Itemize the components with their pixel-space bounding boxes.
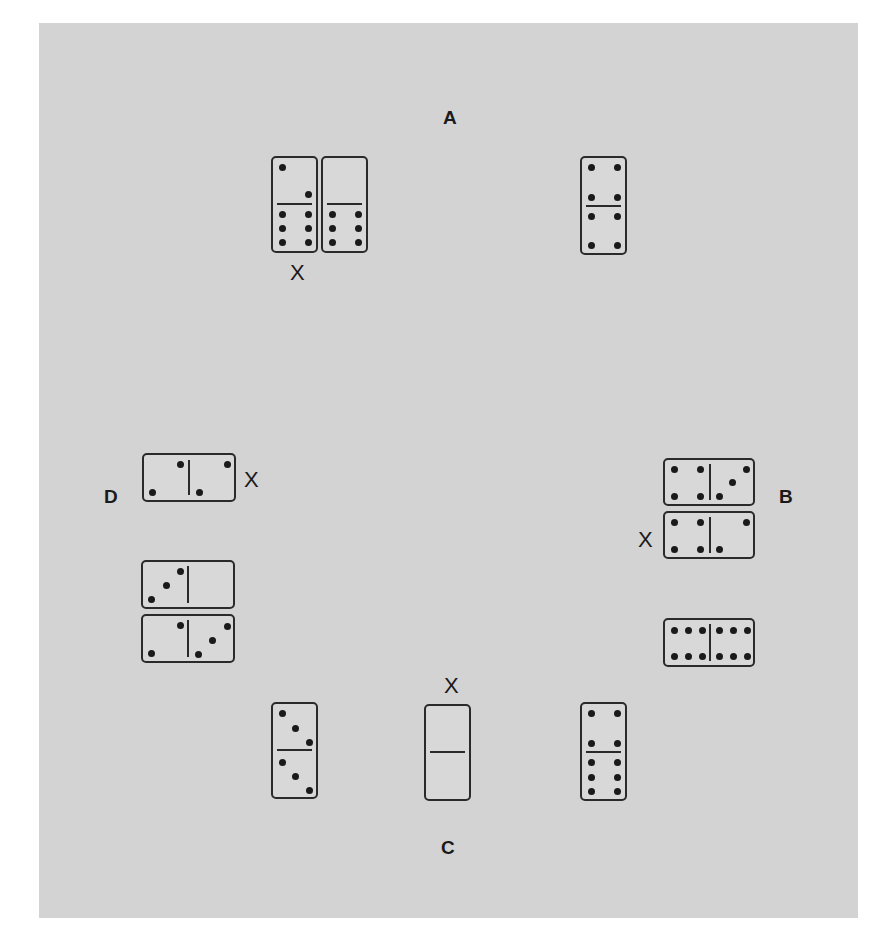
- domino-divider: [709, 464, 711, 500]
- pip: [279, 239, 286, 246]
- domino-b1: [663, 458, 755, 506]
- pip: [355, 239, 362, 246]
- pip: [588, 740, 595, 747]
- domino-divider: [187, 620, 189, 657]
- pip: [614, 774, 621, 781]
- pip: [588, 788, 595, 795]
- pip: [716, 653, 723, 660]
- game-table: A B C D X X X X: [39, 23, 858, 918]
- player-label-b: B: [779, 487, 793, 506]
- pip: [744, 653, 751, 660]
- pip: [292, 725, 299, 732]
- pip: [305, 211, 312, 218]
- pip: [588, 213, 595, 220]
- domino-divider: [586, 205, 621, 207]
- pip: [671, 653, 678, 660]
- pip: [671, 627, 678, 634]
- pip: [730, 653, 737, 660]
- pip: [671, 546, 678, 553]
- pip: [614, 194, 621, 201]
- pip: [588, 774, 595, 781]
- pip: [279, 211, 286, 218]
- x-marker-a: X: [290, 262, 305, 284]
- x-marker-b: X: [638, 529, 653, 551]
- pip: [329, 211, 336, 218]
- domino-divider: [277, 749, 312, 751]
- pip: [305, 225, 312, 232]
- pip: [588, 710, 595, 717]
- pip: [177, 568, 184, 575]
- pip: [588, 242, 595, 249]
- pip: [697, 519, 704, 526]
- pip: [685, 653, 692, 660]
- pip: [697, 493, 704, 500]
- pip: [305, 239, 312, 246]
- pip: [697, 466, 704, 473]
- pip: [196, 489, 203, 496]
- domino-d3: [141, 614, 235, 663]
- player-label-a: A: [443, 108, 457, 127]
- pip: [148, 596, 155, 603]
- pip: [292, 773, 299, 780]
- pip: [614, 710, 621, 717]
- player-label-d: D: [104, 487, 118, 506]
- pip: [743, 466, 750, 473]
- pip: [306, 739, 313, 746]
- pip: [329, 239, 336, 246]
- pip: [614, 213, 621, 220]
- pip: [279, 759, 286, 766]
- pip: [614, 759, 621, 766]
- pip: [224, 461, 231, 468]
- pip: [279, 710, 286, 717]
- pip: [614, 242, 621, 249]
- pip: [177, 622, 184, 629]
- domino-divider: [187, 566, 189, 603]
- domino-divider: [327, 203, 362, 205]
- domino-a2: [321, 156, 368, 253]
- pip: [355, 225, 362, 232]
- domino-a1: [271, 156, 318, 253]
- x-marker-c: X: [444, 675, 459, 697]
- domino-divider: [188, 460, 190, 495]
- domino-divider: [709, 517, 711, 553]
- x-marker-d: X: [244, 469, 259, 491]
- pip: [306, 787, 313, 794]
- pip: [716, 546, 723, 553]
- pip: [671, 493, 678, 500]
- pip: [588, 194, 595, 201]
- domino-divider: [709, 624, 711, 661]
- pip: [209, 637, 216, 644]
- domino-c2: [424, 704, 471, 801]
- pip: [716, 493, 723, 500]
- domino-d2: [141, 560, 235, 609]
- pip: [699, 627, 706, 634]
- player-label-c: C: [441, 838, 455, 857]
- domino-b3: [663, 618, 755, 667]
- pip: [716, 627, 723, 634]
- pip: [279, 164, 286, 171]
- pip: [195, 651, 202, 658]
- pip: [730, 627, 737, 634]
- pip: [177, 461, 184, 468]
- pip: [148, 650, 155, 657]
- pip: [614, 164, 621, 171]
- pip: [588, 164, 595, 171]
- pip: [355, 211, 362, 218]
- domino-divider: [430, 751, 465, 753]
- domino-b2: [663, 511, 755, 559]
- pip: [614, 740, 621, 747]
- domino-divider: [586, 751, 621, 753]
- pip: [588, 759, 595, 766]
- pip: [729, 479, 736, 486]
- pip: [305, 191, 312, 198]
- pip: [329, 225, 336, 232]
- pip: [163, 582, 170, 589]
- domino-c1: [271, 702, 318, 799]
- pip: [671, 466, 678, 473]
- domino-a3: [580, 156, 627, 255]
- pip: [699, 653, 706, 660]
- pip: [224, 623, 231, 630]
- domino-c3: [580, 702, 627, 801]
- pip: [671, 519, 678, 526]
- pip: [279, 225, 286, 232]
